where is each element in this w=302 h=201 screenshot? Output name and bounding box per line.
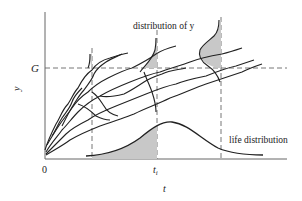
y-density-2 [144,38,157,68]
degradation-diagram: G y 0 ti t distribution of y life distri… [0,0,302,201]
life-distribution-label: life distribution [229,135,288,145]
y-axis-label: y [11,86,22,92]
distribution-of-y-label: distribution of y [133,21,194,31]
origin-label: 0 [42,164,47,175]
x-axis-label: t [163,183,166,194]
ti-label: ti [153,164,158,177]
threshold-g-label: G [31,62,39,74]
y-density-1-outline [88,54,90,68]
